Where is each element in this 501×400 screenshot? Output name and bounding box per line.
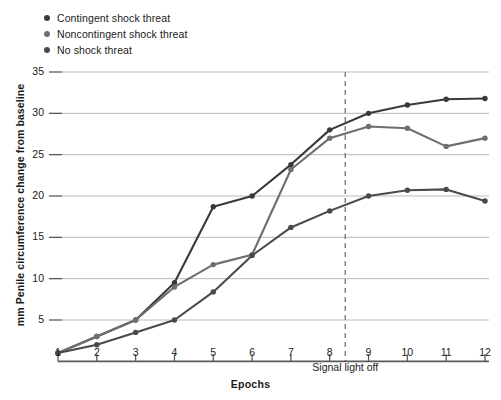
x-tick-label: 11 <box>436 347 456 358</box>
y-tick-label: 25 <box>20 149 44 160</box>
gridlines <box>62 72 489 320</box>
data-point <box>172 284 177 289</box>
x-tick-label: 2 <box>87 347 107 358</box>
data-point <box>366 124 371 129</box>
series-line-2 <box>58 127 485 354</box>
y-axis-title: mm Penile circumference change from base… <box>14 60 28 350</box>
data-point <box>172 317 177 322</box>
legend-marker-icon <box>44 15 50 21</box>
x-tick-label: 12 <box>475 347 495 358</box>
legend-marker-icon <box>44 47 50 53</box>
data-series-group <box>55 96 487 356</box>
x-tick-label: 10 <box>397 347 417 358</box>
data-point <box>288 162 293 167</box>
data-point <box>405 188 410 193</box>
y-tick-label: 30 <box>20 107 44 118</box>
data-point <box>443 144 448 149</box>
data-point <box>443 187 448 192</box>
legend-item-no-shock-threat: No shock threat <box>44 43 274 57</box>
series-line-1 <box>58 98 485 353</box>
data-point <box>133 317 138 322</box>
x-tick-label: 8 <box>320 347 340 358</box>
data-point <box>133 330 138 335</box>
data-point <box>211 262 216 267</box>
x-axis-ticks <box>58 354 485 361</box>
y-axis-ticks <box>49 72 62 320</box>
y-tick-label: 15 <box>20 231 44 242</box>
plot-area <box>0 0 501 400</box>
x-tick-label: 3 <box>126 347 146 358</box>
signal-light-off-label: Signal light off <box>280 361 410 373</box>
data-point <box>327 208 332 213</box>
legend-item-label: Noncontingent shock threat <box>57 28 187 40</box>
y-tick-label: 10 <box>20 273 44 284</box>
data-point <box>405 102 410 107</box>
legend-item-label: No shock threat <box>57 44 132 56</box>
y-tick-label: 5 <box>20 314 44 325</box>
chart-legend: Contingent shock threat Noncontingent sh… <box>44 11 274 59</box>
x-tick-label: 4 <box>164 347 184 358</box>
data-point <box>249 193 254 198</box>
x-axis-title: Epochs <box>0 378 501 390</box>
data-point <box>405 126 410 131</box>
data-point <box>327 135 332 140</box>
data-point <box>366 111 371 116</box>
y-tick-label: 35 <box>20 66 44 77</box>
legend-item-contingent-shock-threat: Contingent shock threat <box>44 11 274 25</box>
legend-marker-icon <box>44 31 50 37</box>
data-point <box>211 289 216 294</box>
data-point <box>249 253 254 258</box>
x-tick-label: 6 <box>242 347 262 358</box>
data-point <box>327 127 332 132</box>
x-tick-label: 5 <box>203 347 223 358</box>
x-tick-label: 1 <box>48 347 68 358</box>
legend-item-noncontingent-shock-threat: Noncontingent shock threat <box>44 27 274 41</box>
data-point <box>288 167 293 172</box>
data-point <box>288 225 293 230</box>
data-point <box>211 204 216 209</box>
legend-item-label: Contingent shock threat <box>57 12 170 24</box>
data-point <box>482 135 487 140</box>
y-tick-label: 20 <box>20 190 44 201</box>
chart-figure: Contingent shock threat Noncontingent sh… <box>0 0 501 400</box>
data-point <box>482 96 487 101</box>
data-point <box>366 193 371 198</box>
x-tick-label: 7 <box>281 347 301 358</box>
data-point <box>482 198 487 203</box>
data-point <box>94 334 99 339</box>
data-point <box>443 97 448 102</box>
x-tick-label: 9 <box>359 347 379 358</box>
